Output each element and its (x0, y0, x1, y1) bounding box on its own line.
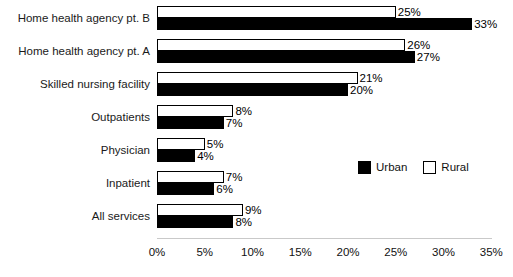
plot-area: 25%33%26%27%21%20%8%7%5%4%7%6%9%8% (157, 0, 497, 240)
legend-item-urban: Urban (358, 161, 407, 174)
bar-rural (157, 138, 205, 150)
bar-value-urban: 4% (195, 150, 214, 162)
legend-label: Rural (441, 161, 468, 174)
x-tick-label: 25% (384, 246, 407, 259)
bar-value-rural: 7% (224, 171, 243, 183)
legend-swatch-urban-icon (358, 161, 371, 174)
x-tick-label: 5% (196, 246, 213, 259)
bar-rural (157, 171, 224, 183)
x-tick-label: 20% (336, 246, 359, 259)
bar-urban (157, 84, 348, 96)
bar-group: 26%27% (157, 39, 497, 63)
bar-chart: Home health agency pt. BHome health agen… (0, 0, 513, 277)
category-label: Skilled nursing facility (40, 78, 150, 91)
chart-legend: UrbanRural (358, 161, 469, 174)
category-label: All services (92, 210, 150, 223)
category-label: Home health agency pt. B (18, 12, 150, 25)
bar-urban (157, 117, 224, 129)
bar-urban (157, 150, 195, 162)
bar-urban (157, 183, 214, 195)
bar-value-rural: 5% (205, 138, 224, 150)
bar-group: 9%8% (157, 204, 497, 228)
category-label: Outpatients (91, 111, 150, 124)
bar-value-urban: 33% (472, 18, 497, 30)
bar-group: 7%6% (157, 171, 497, 195)
bar-group: 8%7% (157, 105, 497, 129)
category-label: Physician (101, 144, 150, 157)
bar-value-urban: 27% (415, 51, 440, 63)
bar-value-rural: 8% (233, 105, 252, 117)
category-axis-labels: Home health agency pt. BHome health agen… (0, 0, 150, 240)
bar-rural (157, 105, 233, 117)
bar-urban (157, 51, 415, 63)
bar-value-urban: 8% (233, 216, 252, 228)
category-label: Home health agency pt. A (18, 45, 150, 58)
legend-swatch-rural-icon (423, 161, 436, 174)
bar-group: 5%4% (157, 138, 497, 162)
bar-rural (157, 6, 396, 18)
bar-value-rural: 21% (358, 72, 383, 84)
bar-group: 25%33% (157, 6, 497, 30)
x-tick-label: 35% (480, 246, 503, 259)
bar-value-rural: 26% (405, 39, 430, 51)
x-tick-label: 10% (241, 246, 264, 259)
bar-rural (157, 72, 358, 84)
x-tick-label: 30% (432, 246, 455, 259)
x-tick-label: 0% (149, 246, 166, 259)
bar-value-rural: 9% (243, 204, 262, 216)
bar-urban (157, 216, 233, 228)
bar-rural (157, 204, 243, 216)
category-label: Inpatient (106, 177, 150, 190)
bar-urban (157, 18, 472, 30)
legend-label: Urban (376, 161, 407, 174)
x-tick-label: 15% (289, 246, 312, 259)
bar-value-urban: 6% (214, 183, 233, 195)
bar-rural (157, 39, 405, 51)
bar-value-rural: 25% (396, 6, 421, 18)
legend-item-rural: Rural (423, 161, 468, 174)
x-axis-line (157, 238, 492, 239)
bar-value-urban: 7% (224, 117, 243, 129)
bar-group: 21%20% (157, 72, 497, 96)
bar-value-urban: 20% (348, 84, 373, 96)
